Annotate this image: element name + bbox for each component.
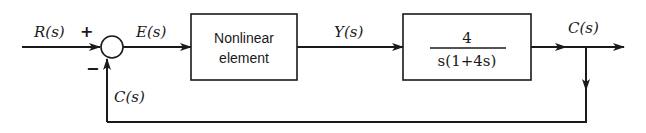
plant-transfer-function-block — [403, 14, 531, 80]
input-signal-label: R(s) — [33, 23, 65, 41]
transfer-function-denominator: s(1+4s) — [438, 52, 497, 70]
feedback-signal-label: C(s) — [114, 88, 145, 106]
transfer-function-numerator: 4 — [462, 29, 472, 47]
nonlinear-block-label-line1: Nonlinear — [214, 30, 274, 46]
summing-junction — [101, 36, 123, 58]
feedback-path-line — [107, 86, 586, 122]
error-signal-label: E(s) — [135, 23, 166, 41]
plus-sign: + — [80, 22, 93, 41]
minus-sign: − — [86, 59, 99, 78]
block-diagram: R(s) + − E(s) Nonlinear element Y(s) 4 s… — [0, 0, 646, 133]
nonlinear-block-label-line2: element — [219, 50, 269, 66]
nonlinear-element-block — [191, 14, 297, 80]
output-signal-label: C(s) — [568, 19, 599, 37]
intermediate-signal-label: Y(s) — [334, 23, 363, 41]
